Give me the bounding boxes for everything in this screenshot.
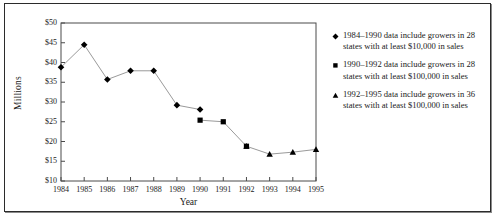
plot-frame [61, 23, 316, 181]
y-axis-ticks [61, 23, 65, 181]
triangle-marker-icon [332, 92, 339, 99]
legend-item: 1992–1995 data include growers in 36 sta… [332, 89, 484, 111]
y-tick-label: $20 [31, 138, 57, 146]
diamond-marker-icon [332, 33, 339, 40]
y-axis-title: Millions [13, 58, 23, 128]
y-tick-label: $10 [31, 177, 57, 185]
data-point-marker [313, 146, 319, 152]
figure-frame: $10$15$20$25$30$35$40$45$50 198419851986… [4, 3, 491, 212]
legend-label: 1992–1995 data include growers in 36 sta… [343, 89, 484, 111]
y-tick-label: $40 [31, 59, 57, 67]
y-tick-label: $30 [31, 98, 57, 106]
legend-item: 1990–1992 data include growers in 28 sta… [332, 59, 484, 81]
y-tick-label: $25 [31, 118, 57, 126]
series-lines [61, 45, 316, 154]
data-point-marker [197, 106, 204, 113]
x-axis-title: Year [61, 197, 316, 207]
series-line [61, 45, 200, 110]
y-tick-label: $45 [31, 39, 57, 47]
data-point-marker [104, 76, 111, 83]
chart-legend: 1984–1990 data include growers in 28 sta… [332, 30, 484, 118]
legend-item: 1984–1990 data include growers in 28 sta… [332, 30, 484, 52]
data-point-marker [150, 67, 157, 74]
legend-label: 1990–1992 data include growers in 28 sta… [343, 59, 484, 81]
series-markers [58, 41, 320, 156]
data-point-marker [174, 102, 181, 109]
square-marker-icon [332, 62, 339, 69]
chart-area: $10$15$20$25$30$35$40$45$50 198419851986… [5, 4, 325, 213]
legend-label: 1984–1990 data include growers in 28 sta… [343, 30, 484, 52]
plot-border [61, 23, 316, 181]
y-tick-label: $50 [31, 19, 57, 27]
series-line [246, 146, 316, 154]
x-tick-label: 1995 [301, 186, 331, 194]
data-point-marker [127, 67, 134, 74]
y-tick-label: $15 [31, 157, 57, 165]
data-point-marker [197, 118, 202, 123]
y-tick-label: $35 [31, 78, 57, 86]
data-point-marker [221, 119, 226, 124]
x-axis-ticks [61, 177, 316, 181]
